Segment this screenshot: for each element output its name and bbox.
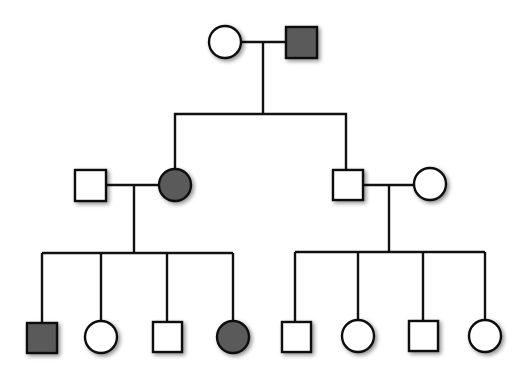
individual-III-8-female-unaffected [469, 320, 501, 352]
individual-III-6-female-unaffected [342, 320, 374, 352]
individual-III-5-male-unaffected [282, 322, 311, 352]
individual-II-2-female-affected [159, 169, 191, 201]
individual-III-3-male-unaffected [153, 322, 182, 352]
individual-I-1-female-unaffected [209, 26, 241, 58]
individual-II-1-male-unaffected [75, 170, 106, 201]
individual-III-4-female-affected [217, 321, 249, 353]
individual-II-4-female-unaffected [414, 168, 446, 200]
individual-II-3-male-unaffected [333, 170, 363, 200]
pedigree-chart [0, 0, 525, 376]
pedigree-svg [0, 0, 525, 376]
sibship-line-gen2 [175, 114, 346, 170]
individual-III-1-male-affected [27, 323, 57, 353]
individual-III-7-male-unaffected [409, 321, 438, 351]
individual-III-2-female-unaffected [85, 321, 117, 353]
individual-I-2-male-affected [286, 27, 317, 58]
